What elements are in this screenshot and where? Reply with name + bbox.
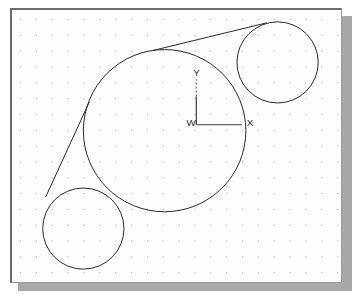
cad-screenshot: W X Y <box>0 0 352 300</box>
ucs-origin-label: W <box>186 117 196 128</box>
wcs-coordinate-icon: W X Y <box>186 67 253 127</box>
ucs-icon-layer: W X Y <box>12 10 341 282</box>
ucs-x-axis-label: X <box>247 117 254 128</box>
drawing-canvas[interactable]: W X Y <box>10 8 342 283</box>
ucs-y-axis-label: Y <box>193 67 200 78</box>
